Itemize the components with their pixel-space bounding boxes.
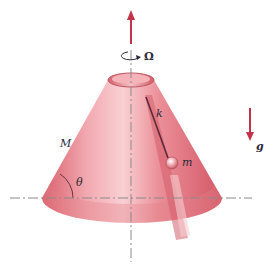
- omega-label: Ω: [144, 50, 154, 63]
- mass-particle: [166, 157, 178, 169]
- cone-diagram: Ω k m M θ g: [0, 0, 271, 271]
- gravity-label: g: [256, 140, 264, 153]
- gravity-arrow-head: [246, 132, 254, 141]
- rotation-icon: [121, 52, 138, 60]
- cone-mass-label: M: [59, 137, 72, 150]
- mass-label: m: [182, 156, 192, 169]
- spring-label: k: [156, 107, 163, 120]
- diagram-canvas: Ω k m M θ g: [0, 0, 271, 271]
- angle-label: θ: [76, 176, 83, 189]
- axis-arrow-head: [127, 10, 135, 20]
